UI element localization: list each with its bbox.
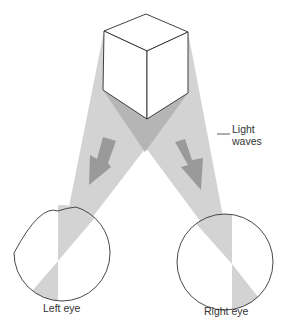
binocular-vision-diagram: Light waves Left eye Right eye bbox=[0, 0, 287, 326]
right-eye-label: Right eye bbox=[204, 305, 248, 317]
left-eye-label: Left eye bbox=[43, 302, 80, 314]
light-waves-label-line1: Light bbox=[232, 123, 262, 135]
light-waves-label-line2: waves bbox=[232, 135, 262, 147]
light-waves-label: Light waves bbox=[232, 123, 262, 147]
diagram-graphic bbox=[0, 0, 287, 326]
right-eye bbox=[175, 200, 273, 312]
left-eye bbox=[14, 200, 110, 305]
